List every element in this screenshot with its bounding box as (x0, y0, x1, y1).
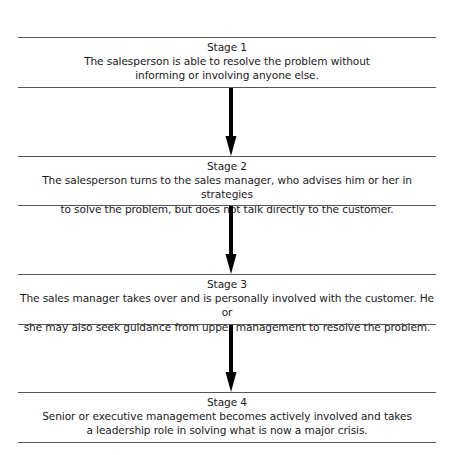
stage-4-box: Stage 4 Senior or executive management b… (18, 395, 436, 438)
down-arrow-icon (223, 206, 239, 274)
stage-3-title: Stage 3 (18, 277, 436, 291)
stage-3-desc-line-1: The sales manager takes over and is pers… (18, 291, 436, 319)
stage-1-title: Stage 1 (18, 40, 436, 54)
stage-2-desc-line-1: The salesperson turns to the sales manag… (18, 173, 436, 201)
down-arrow-icon (223, 88, 239, 156)
stage-3-top-rule (18, 274, 436, 275)
stage-1-desc-line-1: The salesperson is able to resolve the p… (18, 54, 436, 68)
stage-4-title: Stage 4 (18, 395, 436, 409)
stage-1-top-rule (18, 37, 436, 38)
down-arrow-icon (223, 325, 239, 392)
stage-4-desc-line-1: Senior or executive management becomes a… (18, 409, 436, 423)
stage-2-title: Stage 2 (18, 159, 436, 173)
stage-4-desc-line-2: a leadership role in solving what is now… (18, 423, 436, 437)
stage-1-desc-line-2: informing or involving anyone else. (18, 68, 436, 82)
stage-2-top-rule (18, 156, 436, 157)
stage-4-bottom-rule (18, 442, 436, 443)
stage-4-top-rule (18, 392, 436, 393)
stage-1-box: Stage 1 The salesperson is able to resol… (18, 40, 436, 83)
